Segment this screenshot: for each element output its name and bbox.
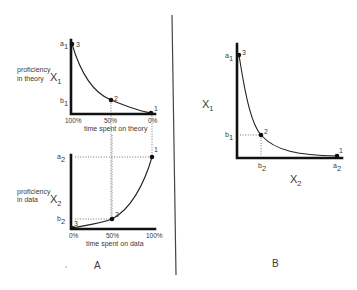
x-tick-50pct: 50% [106, 232, 119, 239]
x-tick-0pct: 0% [148, 117, 158, 124]
panel-b-graph: 3 2 1 a1 b1 X1 b2 a2 X2 [202, 44, 343, 188]
point-3-b [237, 53, 241, 57]
x-tick-0pct: 0% [69, 232, 79, 239]
y-symbol-x1: X1 [202, 98, 214, 113]
tick-a2: a2 [57, 153, 65, 164]
point-1-data [150, 155, 155, 160]
point-label-2: 2 [114, 95, 118, 102]
point-2-theory [109, 98, 114, 103]
point-label-2: 2 [115, 211, 119, 218]
tick-b1: b1 [60, 97, 68, 108]
tick-b1: b1 [225, 131, 233, 142]
y-label-theory-line1: proficiency [17, 66, 51, 74]
tick-a1: a1 [60, 40, 68, 51]
x-label-data: time spent on data [86, 240, 144, 248]
point-3-theory [70, 42, 75, 47]
point-label-1: 1 [154, 146, 158, 153]
y-label-theory-line2: in theory [17, 75, 44, 83]
y-label-data-line2: in data [17, 196, 38, 203]
point-label-1: 1 [339, 147, 343, 154]
panel-b-label: B [272, 258, 279, 269]
point-label-3: 3 [242, 49, 246, 56]
y-symbol-x2: X2 [50, 193, 62, 208]
tick-b2: b2 [57, 215, 65, 226]
stray-mark: , [65, 261, 67, 268]
point-2-data [110, 217, 115, 222]
x-label-theory: time spent on theory [84, 125, 148, 133]
point-2-b [259, 133, 264, 138]
x-tick-100pct: 100% [146, 232, 163, 239]
axes-b [237, 44, 342, 158]
x-symbol-x2: X2 [290, 173, 302, 188]
y-symbol-x1: X1 [50, 71, 62, 86]
tick-b2: b2 [258, 162, 266, 173]
point-label-1: 1 [154, 105, 158, 112]
point-label-3: 3 [74, 220, 78, 227]
panel-a-bottom-graph: 3 2 1 a2 b2 proficiency in data X2 0% 50… [17, 135, 163, 248]
point-label-3: 3 [76, 41, 80, 48]
axes-theory [71, 40, 155, 114]
curve-theory [72, 44, 151, 113]
x-tick-50pct: 50% [104, 117, 117, 124]
y-label-data-line1: proficiency [17, 188, 51, 196]
tick-a1: a1 [225, 52, 233, 63]
point-label-2: 2 [264, 128, 268, 135]
point-1-b [335, 154, 340, 159]
panel-divider [172, 15, 176, 275]
tradeoff-diagram: 3 2 1 a1 b1 proficiency in theory X1 100… [0, 0, 357, 290]
curve-b [239, 55, 337, 156]
tick-a2: a2 [333, 162, 341, 173]
point-1-theory [149, 111, 154, 116]
panel-a-label: A [94, 260, 101, 271]
x-tick-100pct: 100% [65, 117, 82, 124]
